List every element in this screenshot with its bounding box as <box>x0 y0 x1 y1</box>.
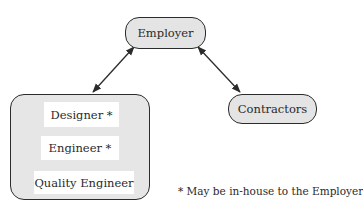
designer-label: Designer * <box>50 108 112 122</box>
contractors-label: Contractors <box>238 102 308 116</box>
quality-engineer-label: Quality Engineer <box>34 176 133 190</box>
employer-node: Employer <box>125 17 206 49</box>
quality-engineer-box: Quality Engineer <box>34 171 134 194</box>
edge-employer-contractors-arrow <box>198 47 240 92</box>
designer-box: Designer * <box>44 102 119 127</box>
employer-label: Employer <box>137 26 193 40</box>
footnote: * May be in-house to the Employer <box>178 185 363 197</box>
team-group-node: Designer * Engineer * Quality Engineer <box>10 94 150 200</box>
edge-employer-team-arrow <box>93 47 134 92</box>
contractors-node: Contractors <box>228 94 317 124</box>
engineer-label: Engineer * <box>49 141 112 155</box>
engineer-box: Engineer * <box>41 136 119 160</box>
